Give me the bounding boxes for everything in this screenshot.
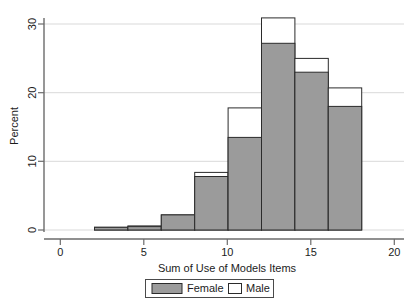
- x-tick-label-5: 5: [141, 246, 147, 258]
- bar-bin-8-10: [195, 172, 228, 230]
- legend-label-male: Male: [246, 282, 270, 294]
- bar-female-8-10: [195, 177, 228, 231]
- y-tick-label-10: 10: [26, 155, 38, 167]
- bar-bin-2-4: [95, 227, 128, 230]
- x-axis-title: Sum of Use of Models Items: [158, 262, 297, 274]
- bar-group: [95, 18, 362, 230]
- bar-female-16-18: [328, 106, 361, 230]
- bar-female-14-16: [295, 72, 328, 230]
- bar-female-2-4: [95, 227, 128, 230]
- x-tick-label-0: 0: [57, 246, 63, 258]
- y-axis-title: Percent: [8, 107, 20, 145]
- x-axis: 0 5 10 15 20 Sum of Use of Models Items: [44, 239, 404, 274]
- bar-female-4-6: [128, 227, 161, 230]
- bar-bin-16-18: [328, 88, 361, 230]
- y-axis: 30 20 10 0 Percent: [8, 18, 44, 233]
- y-tick-label-0: 0: [26, 227, 38, 233]
- bar-female-10-12: [228, 137, 261, 230]
- chart-canvas: 30 20 10 0 Percent 0 5 10 15 20 Sum of U…: [0, 0, 414, 302]
- x-tick-label-15: 15: [305, 246, 317, 258]
- y-tick-label-20: 20: [26, 87, 38, 99]
- bar-bin-4-6: [128, 226, 161, 230]
- bar-female-6-8: [161, 215, 194, 230]
- bar-female-12-14: [262, 43, 295, 230]
- x-tick-label-20: 20: [388, 246, 400, 258]
- bar-bin-10-12: [228, 108, 261, 230]
- histogram-figure: 30 20 10 0 Percent 0 5 10 15 20 Sum of U…: [0, 0, 414, 302]
- legend-swatch-female-icon: [152, 284, 182, 294]
- bar-bin-6-8: [161, 215, 194, 230]
- legend-label-female: Female: [187, 282, 224, 294]
- x-tick-label-10: 10: [221, 246, 233, 258]
- bar-bin-12-14: [262, 18, 295, 230]
- legend-swatch-male-icon: [229, 284, 242, 294]
- bar-bin-14-16: [295, 58, 328, 230]
- chart-legend: Female Male: [146, 280, 274, 298]
- y-tick-label-30: 30: [26, 18, 38, 30]
